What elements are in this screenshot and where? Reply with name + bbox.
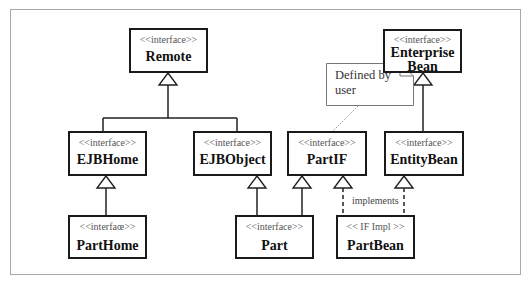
class-part: <<interface>> Part	[235, 215, 314, 259]
stereotype-label: <<interface>>	[131, 34, 206, 46]
stereotype-label: <<interface>>	[70, 137, 145, 149]
class-remote: <<interface>> Remote	[129, 28, 208, 73]
note-line-1: Defined by	[335, 68, 391, 82]
class-name: PartBean	[338, 238, 413, 254]
triangle-partif-right	[334, 176, 352, 188]
note-defined-by-user: Defined by user	[326, 63, 414, 106]
class-ejbobject: <<interface>> EJBObject	[193, 131, 272, 176]
class-name: EJBObject	[195, 152, 270, 168]
class-ejbhome: <<interface>> EJBHome	[68, 131, 147, 176]
triangle-partif-left	[293, 176, 311, 188]
implements-label: implements	[352, 195, 399, 206]
stereotype-label: <<interface>>	[237, 221, 312, 233]
class-parthome: <<interfaœ>> PartHome	[68, 215, 147, 259]
class-partbean: << IF Impl >> PartBean	[336, 215, 415, 259]
class-name: PartIF	[289, 152, 365, 168]
class-name-line1: Enterprise	[385, 46, 460, 60]
stereotype-label: <<interface>>	[195, 137, 270, 149]
class-name: EntityBean	[386, 152, 462, 168]
note-text: Defined by user	[335, 68, 391, 98]
stereotype-label: << IF Impl >>	[338, 221, 413, 233]
class-name: Part	[237, 238, 312, 254]
triangle-ejbhome	[97, 176, 115, 188]
triangle-entitybean	[395, 176, 413, 188]
note-line-2: user	[335, 83, 356, 97]
triangle-enterprise-bean	[414, 73, 432, 85]
triangle-ejbobject	[248, 176, 266, 188]
class-partif: <<interface>> PartIF	[287, 131, 367, 176]
class-name: Remote	[131, 49, 206, 65]
stereotype-label: <<interface>>	[386, 137, 462, 149]
class-entitybean: <<interface>> EntityBean	[384, 131, 464, 176]
triangle-remote	[159, 73, 177, 85]
stereotype-label: <<interfaœ>>	[70, 221, 145, 233]
class-name: PartHome	[70, 238, 145, 254]
class-name: EJBHome	[70, 152, 145, 168]
stereotype-label: <<interface>>	[289, 137, 365, 149]
